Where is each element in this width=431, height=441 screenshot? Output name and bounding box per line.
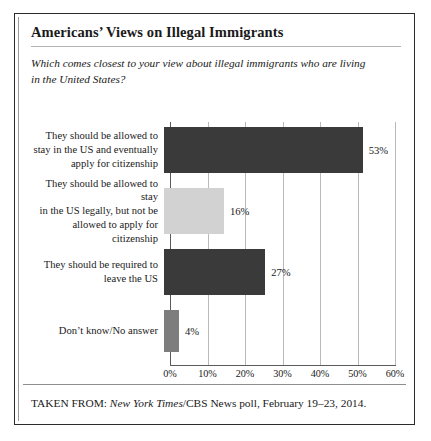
bar-row: Don’t know/No answer4%: [31, 310, 403, 352]
x-tick-label: 50%: [348, 368, 367, 379]
bar[interactable]: [164, 310, 179, 352]
bar-rows: They should be allowed tostay in the US …: [31, 122, 403, 365]
x-axis-tick-labels: 0%10%20%30%40%50%60%: [170, 368, 396, 384]
bar-value-label: 53%: [369, 145, 388, 156]
bar-category-label: Don’t know/No answer: [31, 324, 164, 338]
x-tick-label: 30%: [273, 368, 292, 379]
chart-figure: Americans’ Views on Illegal Immigrants W…: [14, 13, 415, 425]
source-prefix: TAKEN FROM:: [31, 397, 110, 409]
bar-row: They should be allowed to stayin the US …: [31, 188, 403, 234]
x-tick-label: 0%: [163, 368, 177, 379]
bar-value-label: 27%: [271, 267, 290, 278]
x-tick-label: 10%: [198, 368, 217, 379]
bar-track: 27%: [164, 249, 403, 295]
bar-track: 4%: [164, 310, 403, 352]
plot-area: They should be allowed tostay in the US …: [31, 122, 403, 374]
bar[interactable]: [164, 249, 265, 295]
bar[interactable]: [164, 188, 224, 234]
bar-track: 16%: [164, 188, 403, 234]
source-publication: New York Times: [110, 397, 183, 409]
figure-inner: Americans’ Views on Illegal Immigrants W…: [15, 14, 414, 424]
bar-value-label: 4%: [185, 326, 199, 337]
bar-category-label: They should be allowed tostay in the US …: [31, 129, 164, 170]
source-rest: /CBS News poll, February 19–23, 2014.: [183, 397, 367, 409]
x-tick-label: 60%: [386, 368, 405, 379]
source-caption: TAKEN FROM: New York Times/CBS News poll…: [31, 396, 401, 411]
chart-subtitle: Which comes closest to your view about i…: [31, 47, 375, 87]
chart-title: Americans’ Views on Illegal Immigrants: [31, 14, 401, 41]
bar-value-label: 16%: [230, 206, 249, 217]
x-tick-label: 40%: [311, 368, 330, 379]
x-tick-label: 20%: [236, 368, 255, 379]
bar-category-label: They should be allowed to stayin the US …: [31, 177, 164, 246]
bar-row: They should be allowed tostay in the US …: [31, 127, 403, 173]
x-axis-line: [170, 365, 396, 366]
source-divider: [23, 384, 406, 385]
bar[interactable]: [164, 127, 363, 173]
bar-category-label: They should be required toleave the US: [31, 258, 164, 286]
bar-row: They should be required toleave the US27…: [31, 249, 403, 295]
bar-track: 53%: [164, 127, 403, 173]
